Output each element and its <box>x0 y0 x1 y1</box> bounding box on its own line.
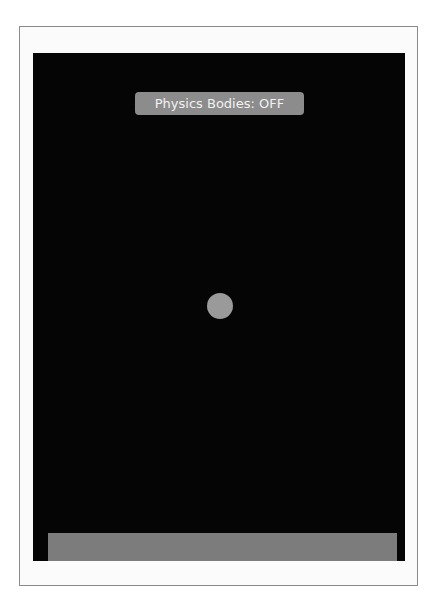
game-scene-view[interactable]: Physics Bodies: OFF <box>33 53 405 561</box>
physics-bodies-status-label[interactable]: Physics Bodies: OFF <box>135 92 304 115</box>
ground-sprite <box>48 533 397 561</box>
ball-sprite <box>207 293 233 319</box>
